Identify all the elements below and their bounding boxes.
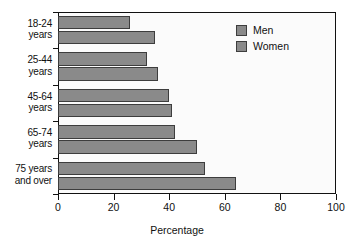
legend-item-men: Men xyxy=(236,23,289,37)
y-axis-label-line: 45-64 xyxy=(0,91,52,103)
y-axis-tick-4 xyxy=(53,158,59,159)
bars-layer xyxy=(58,12,336,194)
y-axis-label-0: 18-24years xyxy=(0,18,52,41)
x-axis-tick-label-0: 0 xyxy=(38,201,78,213)
bar-women-0 xyxy=(58,31,155,45)
bar-men-4 xyxy=(58,162,205,176)
y-axis-label-line: years xyxy=(0,138,52,150)
bar-men-0 xyxy=(58,16,130,30)
legend-label-women: Women xyxy=(253,40,289,52)
y-axis-tick-3 xyxy=(53,121,59,122)
x-axis-tick-label-60: 60 xyxy=(205,201,245,213)
y-axis-label-line: 75 years xyxy=(0,163,52,175)
x-axis-tick-60 xyxy=(225,194,226,200)
y-axis-label-line: years xyxy=(0,66,52,78)
x-axis-tick-0 xyxy=(58,194,59,200)
bar-men-1 xyxy=(58,52,147,66)
bar-men-3 xyxy=(58,125,175,139)
legend-swatch-men-icon xyxy=(236,25,247,36)
bar-chart-figure: 18-24years25-44years45-64years65-74years… xyxy=(0,0,354,250)
y-axis-label-line: 65-74 xyxy=(0,127,52,139)
legend-label-men: Men xyxy=(253,24,273,36)
x-axis-tick-label-40: 40 xyxy=(149,201,189,213)
y-axis-label-2: 45-64years xyxy=(0,91,52,114)
chart-legend: Men Women xyxy=(236,23,289,55)
x-axis-title: Percentage xyxy=(0,224,354,236)
x-axis-tick-20 xyxy=(114,194,115,200)
y-axis-tick-2 xyxy=(53,85,59,86)
y-axis-tick-0 xyxy=(53,12,59,13)
y-axis-label-1: 25-44years xyxy=(0,54,52,77)
bar-men-2 xyxy=(58,89,169,103)
y-axis-label-line: 18-24 xyxy=(0,18,52,30)
y-axis-label-3: 65-74years xyxy=(0,127,52,150)
x-axis-tick-label-20: 20 xyxy=(94,201,134,213)
legend-swatch-women-icon xyxy=(236,41,247,52)
x-axis-tick-label-80: 80 xyxy=(260,201,300,213)
x-axis-tick-label-100: 100 xyxy=(316,201,354,213)
y-axis-label-line: years xyxy=(0,29,52,41)
y-axis-label-4: 75 yearsand over xyxy=(0,163,52,186)
x-axis-tick-40 xyxy=(169,194,170,200)
bar-women-2 xyxy=(58,104,172,118)
x-axis-tick-80 xyxy=(280,194,281,200)
y-axis-label-line: 25-44 xyxy=(0,54,52,66)
y-axis-label-line: and over xyxy=(0,175,52,187)
y-axis-label-line: years xyxy=(0,102,52,114)
y-axis-tick-1 xyxy=(53,48,59,49)
legend-item-women: Women xyxy=(236,39,289,53)
bar-women-3 xyxy=(58,140,197,154)
bar-women-1 xyxy=(58,67,158,81)
bar-women-4 xyxy=(58,177,236,191)
x-axis-tick-100 xyxy=(336,194,337,200)
